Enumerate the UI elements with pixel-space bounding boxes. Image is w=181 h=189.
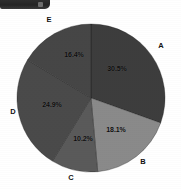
pie-chart: 30.5% 18.1% 10.2% 24.9% 16.4% A B C D E [0,0,181,189]
category-label-d: D [10,107,15,116]
slice-percent-e: 16.4% [64,51,83,58]
slice-percent-d: 24.9% [42,101,61,108]
category-label-c: C [68,173,73,182]
category-label-a: A [158,41,163,50]
slice-percent-c: 10.2% [73,135,92,142]
category-label-b: B [140,157,145,166]
pie-slice-group [17,24,165,172]
slice-percent-b: 18.1% [106,126,125,133]
category-label-e: E [46,15,51,24]
slice-percent-a: 30.5% [107,65,126,72]
pie-chart-canvas [0,0,181,189]
